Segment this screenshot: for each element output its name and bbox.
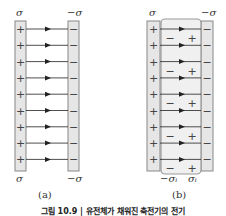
minus-sign-icon: − [202, 72, 211, 85]
panel-a-left-charge-bottom: σ [16, 174, 23, 184]
minus-sign-icon: − [202, 153, 211, 166]
dielectric-minus-icon: − [165, 65, 174, 78]
minus-sign-icon: − [69, 105, 78, 118]
dielectric-minus-icon: − [165, 130, 174, 143]
panel-a-right-charge-bottom: −σ [67, 174, 82, 184]
arrow-right-icon [45, 141, 51, 146]
panel-a-right-charge-top: −σ [67, 8, 82, 18]
plus-sign-icon: + [149, 72, 158, 85]
arrow-right-icon [45, 157, 51, 162]
dielectric-plus-icon: + [187, 97, 196, 110]
arrow-right-icon [45, 43, 51, 48]
minus-sign-icon: − [69, 153, 78, 166]
arrow-right-icon [45, 92, 51, 97]
plus-sign-icon: + [16, 23, 25, 36]
arrow-right-icon [45, 124, 51, 129]
minus-sign-icon: − [69, 39, 78, 52]
plus-sign-icon: + [149, 23, 158, 36]
dielectric-plus-icon: + [187, 130, 196, 143]
plus-sign-icon: + [149, 56, 158, 69]
minus-sign-icon: − [69, 56, 78, 69]
plus-sign-icon: + [16, 121, 25, 134]
minus-sign-icon: − [69, 72, 78, 85]
dielectric-plus-icon: + [187, 32, 196, 45]
minus-sign-icon: − [202, 88, 211, 101]
plus-sign-icon: + [149, 105, 158, 118]
minus-sign-icon: − [202, 56, 211, 69]
arrow-right-icon [45, 108, 51, 113]
capacitor-figure: +−+−+−+−+−+−+−+−+−+−+−+−+−+−+−+−+−+−−+−+… [0, 0, 226, 216]
plus-sign-icon: + [16, 39, 25, 52]
figure-caption: 그림 10.9 | 유전체가 채워진 축전기의 전기 [0, 205, 226, 216]
panel-a-label: (a) [38, 190, 52, 200]
plus-sign-icon: + [16, 72, 25, 85]
minus-sign-icon: − [69, 23, 78, 36]
arrow-right-icon [45, 27, 51, 32]
panel-b-label: (b) [172, 190, 186, 200]
minus-sign-icon: − [202, 39, 211, 52]
panel-b-dielectric-left-charge: −σᵢ [160, 174, 177, 184]
minus-sign-icon: − [69, 88, 78, 101]
plus-sign-icon: + [149, 88, 158, 101]
dielectric-plus-icon: + [187, 65, 196, 78]
plus-sign-icon: + [149, 137, 158, 150]
plus-sign-icon: + [16, 56, 25, 69]
minus-sign-icon: − [202, 137, 211, 150]
minus-sign-icon: − [202, 121, 211, 134]
plus-sign-icon: + [149, 121, 158, 134]
panel-b-right-charge-top: −σ [201, 8, 216, 18]
plus-sign-icon: + [149, 153, 158, 166]
minus-sign-icon: − [202, 23, 211, 36]
panel-a-left-charge-top: σ [16, 8, 23, 18]
plus-sign-icon: + [149, 39, 158, 52]
plus-sign-icon: + [16, 88, 25, 101]
minus-sign-icon: − [69, 121, 78, 134]
arrow-right-icon [45, 75, 51, 80]
panel-b-dielectric-right-charge: σᵢ [188, 174, 197, 184]
panel-b-left-charge-top: σ [149, 8, 156, 18]
minus-sign-icon: − [69, 137, 78, 150]
plus-sign-icon: + [16, 153, 25, 166]
dielectric-minus-icon: − [165, 32, 174, 45]
dielectric-minus-icon: − [165, 97, 174, 110]
plus-sign-icon: + [16, 105, 25, 118]
minus-sign-icon: − [202, 105, 211, 118]
plus-sign-icon: + [16, 137, 25, 150]
arrow-right-icon [45, 59, 51, 64]
